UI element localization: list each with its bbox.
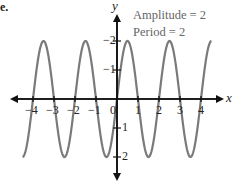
y-tick-label: −2 [103, 33, 116, 48]
amplitude-annotation: Amplitude = 2 [133, 8, 206, 23]
x-tick-label: −2 [67, 103, 80, 118]
x-axis-label: x [226, 90, 232, 106]
period-annotation: Period = 2 [133, 25, 185, 40]
x-tick-label: 2 [156, 103, 162, 118]
chart-plot-area [0, 0, 235, 181]
y-tick-label: 1 [122, 120, 128, 135]
x-tick-label: −1 [88, 103, 101, 118]
y-tick-label: −1 [103, 62, 116, 77]
x-tick-label: −3 [46, 103, 59, 118]
y-axis-label: y [112, 0, 118, 14]
x-tick-label: 4 [198, 103, 204, 118]
y-tick-label: 2 [122, 149, 128, 164]
x-tick-label: 3 [177, 103, 183, 118]
x-tick-label: −4 [25, 103, 38, 118]
x-tick-label: 0 [110, 103, 116, 118]
x-tick-label: 1 [135, 103, 141, 118]
